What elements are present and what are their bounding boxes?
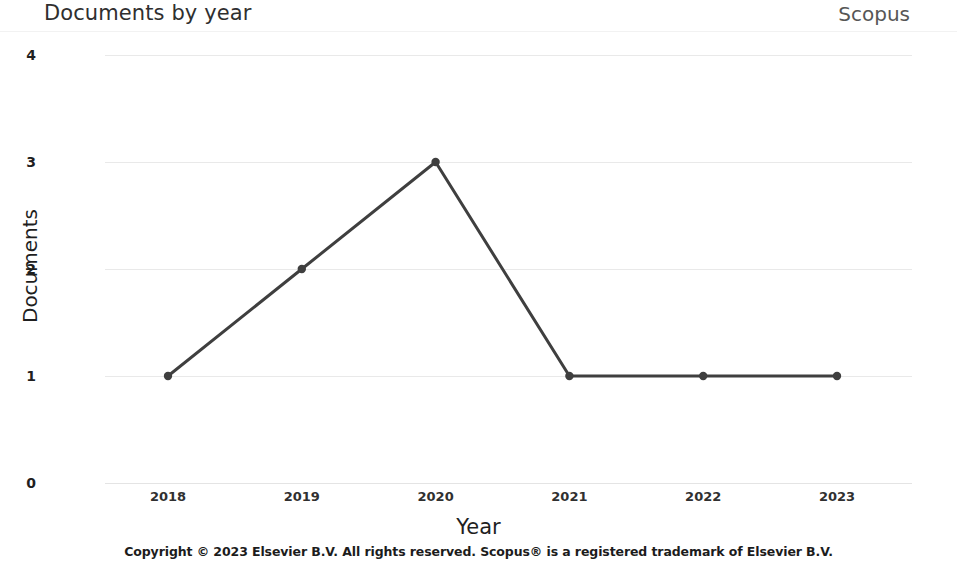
y-axis-title: Documents [18, 209, 42, 323]
y-tick-label-1: 1 [0, 368, 36, 384]
gridline [105, 376, 912, 377]
x-axis-title: Year [0, 515, 957, 539]
x-tick-label-2020: 2020 [396, 489, 476, 504]
gridline [105, 269, 912, 270]
page-title: Documents by year [44, 1, 251, 25]
plot-area [105, 55, 912, 483]
scopus-brand-label: Scopus [838, 2, 910, 26]
gridline [105, 483, 912, 484]
gridline [105, 55, 912, 56]
y-tick-label-4: 4 [0, 47, 36, 63]
y-tick-label-3: 3 [0, 154, 36, 170]
x-tick-label-2023: 2023 [797, 489, 877, 504]
header-divider [0, 31, 957, 32]
copyright-notice: Copyright © 2023 Elsevier B.V. All right… [0, 544, 957, 559]
x-tick-label-2019: 2019 [262, 489, 342, 504]
x-tick-label-2021: 2021 [529, 489, 609, 504]
y-tick-label-0: 0 [0, 475, 36, 491]
x-tick-label-2022: 2022 [663, 489, 743, 504]
x-tick-label-2018: 2018 [128, 489, 208, 504]
gridline [105, 162, 912, 163]
documents-by-year-chart: Documents by year Scopus 01234 201820192… [0, 0, 957, 580]
